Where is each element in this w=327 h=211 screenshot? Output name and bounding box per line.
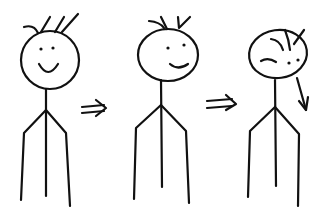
- eye: [166, 46, 169, 49]
- left-arm-leg: [21, 110, 46, 200]
- double-arrow-icon: [82, 100, 106, 116]
- stick-figure-happy: [21, 14, 79, 206]
- smirk-mouth: [170, 64, 188, 68]
- hair-strand: [149, 21, 164, 28]
- hair-strand: [178, 17, 179, 28]
- hair-strand: [180, 17, 190, 27]
- eye: [182, 43, 185, 46]
- sketch-canvas: [0, 0, 327, 211]
- head: [138, 29, 198, 81]
- torso: [161, 80, 162, 187]
- hair-strand: [271, 39, 283, 50]
- torso: [275, 80, 276, 186]
- right-arm-leg: [161, 105, 189, 203]
- right-arm-leg: [275, 107, 299, 206]
- head: [21, 31, 79, 89]
- left-arm-leg: [134, 105, 161, 199]
- stick-figure-tilted: [246, 26, 310, 206]
- smile-mouth: [39, 64, 58, 72]
- left-arm-leg: [248, 107, 275, 197]
- right-arm-leg: [46, 110, 70, 206]
- eye: [287, 61, 290, 64]
- hair-strand: [285, 30, 290, 50]
- eye: [39, 47, 42, 50]
- hair-strand: [24, 26, 38, 33]
- stick-figure-smirk: [134, 17, 198, 203]
- squiggle-mouth: [261, 59, 276, 62]
- double-arrow-icon: [207, 95, 236, 110]
- hair-strand: [294, 30, 304, 44]
- eye: [296, 58, 299, 61]
- eye: [51, 46, 54, 49]
- hair-strand: [41, 17, 50, 32]
